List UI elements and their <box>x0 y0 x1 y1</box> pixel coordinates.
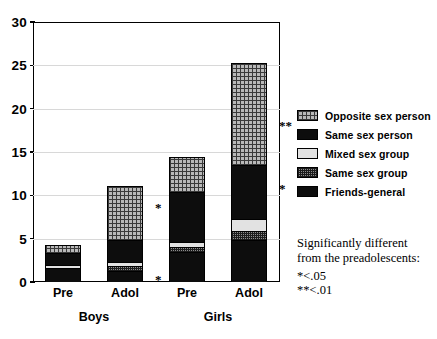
legend-item-friends-general[interactable]: Friends-general <box>297 184 437 200</box>
significance-mark-1: * <box>155 273 162 286</box>
y-tick-label-10: 10 <box>12 188 27 203</box>
bar-segment-friends-general <box>46 269 80 282</box>
bar-segment-same-sex-person <box>170 193 204 243</box>
legend-label-1: Same sex person <box>325 129 413 141</box>
y-tick-label-20: 20 <box>12 101 27 116</box>
footnote-significance-01: **<.01 <box>297 283 437 298</box>
legend-label-0: Opposite sex person <box>325 110 431 122</box>
legend-label-2: Mixed sex group <box>325 148 409 160</box>
bar-segment-same-sex-group <box>232 232 266 241</box>
x-tick-label-2: Pre <box>177 286 197 300</box>
bar-segment-same-sex-person <box>108 241 142 263</box>
legend-label-4: Friends-general <box>325 186 405 198</box>
footnote-significance-05: *<.05 <box>297 269 437 284</box>
bar-segment-opposite-sex-person <box>108 187 142 241</box>
y-tick-label-15: 15 <box>12 145 27 160</box>
bar-segment-opposite-sex-person <box>46 246 80 254</box>
bar-segment-same-sex-person <box>232 166 266 219</box>
x-group-label-boys: Boys <box>79 310 110 324</box>
bars-container: ***** <box>33 22 280 282</box>
legend-item-mixed-sex-group[interactable]: Mixed sex group <box>297 146 437 162</box>
chart-root: 051015202530 ***** PreAdolPreAdol BoysGi… <box>0 0 437 339</box>
legend-item-same-sex-person[interactable]: Same sex person <box>297 127 437 143</box>
plot-area: ***** <box>33 22 280 282</box>
x-tick-label-0: Pre <box>53 286 73 300</box>
bar-segment-same-sex-person <box>46 254 80 266</box>
footnote-line-2: from the preadolescents: <box>297 251 437 266</box>
legend-item-same-sex-group[interactable]: Same sex group <box>297 165 437 181</box>
significance-mark-2: ** <box>279 119 292 132</box>
legend-swatch-icon-0 <box>297 110 318 121</box>
bar-segment-friends-general <box>108 272 142 282</box>
bar-segment-opposite-sex-person <box>170 158 204 193</box>
footnote: Significantly different from the preadol… <box>297 236 437 298</box>
bar-segment-friends-general <box>170 253 204 282</box>
legend-item-opposite-sex-person[interactable]: Opposite sex person <box>297 108 437 124</box>
footnote-line-1: Significantly different <box>297 236 437 251</box>
y-tick-label-5: 5 <box>19 231 27 246</box>
bar-adol-girls[interactable] <box>231 63 267 282</box>
significance-mark-0: * <box>155 201 162 214</box>
legend-label-3: Same sex group <box>325 167 408 179</box>
bar-pre-girls[interactable] <box>169 157 205 282</box>
x-axis-labels: PreAdolPreAdol <box>33 286 280 304</box>
legend-swatch-icon-3 <box>297 167 318 178</box>
bar-segment-mixed-sex-group <box>232 220 266 232</box>
significance-mark-3: * <box>279 182 286 195</box>
bar-pre-boys[interactable] <box>45 245 81 282</box>
legend-swatch-icon-2 <box>297 148 318 159</box>
bar-adol-boys[interactable] <box>107 186 143 282</box>
x-axis-group-labels: BoysGirls <box>33 310 280 328</box>
legend-swatch-icon-4 <box>297 186 318 197</box>
x-tick-label-3: Adol <box>235 286 263 300</box>
bar-segment-friends-general <box>232 241 266 282</box>
bar-segment-opposite-sex-person <box>232 64 266 167</box>
legend-swatch-icon-1 <box>297 129 318 140</box>
y-axis: 051015202530 <box>0 22 33 282</box>
y-tick-label-25: 25 <box>12 58 27 73</box>
y-tick-label-0: 0 <box>19 275 27 290</box>
x-tick-label-1: Adol <box>111 286 139 300</box>
x-group-label-girls: Girls <box>204 310 233 324</box>
legend: Opposite sex personSame sex personMixed … <box>297 108 437 203</box>
y-tick-label-30: 30 <box>12 15 27 30</box>
